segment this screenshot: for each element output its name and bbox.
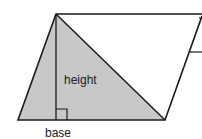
- parallelogram-diagram: height base: [0, 0, 202, 139]
- shaded-triangle: [18, 14, 165, 120]
- height-label: height: [64, 73, 97, 87]
- base-label: base: [45, 126, 71, 139]
